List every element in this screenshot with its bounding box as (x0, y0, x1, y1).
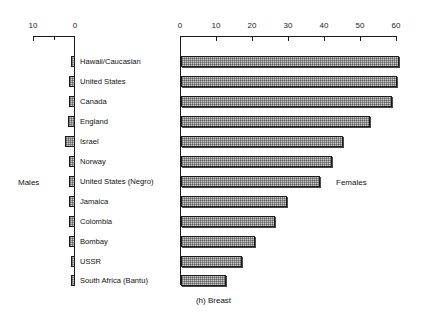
category-label-ussr: USSR (80, 258, 101, 266)
male-bar-israel (65, 136, 75, 147)
male-bar-norway (69, 156, 75, 167)
category-label-norway: Norway (80, 158, 106, 166)
female-bar-jamaica (181, 196, 287, 207)
female-bar-hawaii-caucasian (181, 56, 399, 67)
male-bar-canada (69, 96, 75, 107)
right-axis-ticklabel-20: 20 (244, 22, 260, 30)
female-bar-israel (181, 136, 343, 147)
right-axis-ticklabel-60: 60 (388, 22, 404, 30)
female-bar-united-states-negro (181, 176, 320, 187)
males-series-label: Males (18, 178, 39, 187)
category-label-united-states: United States (80, 78, 126, 86)
right-axis-tick-60 (396, 36, 397, 41)
right-axis-ticklabel-40: 40 (316, 22, 332, 30)
right-axis-ticklabel-0: 0 (172, 22, 188, 30)
male-bar-united-states (69, 76, 75, 87)
female-bar-colombia (181, 216, 275, 227)
male-bar-england (68, 116, 75, 127)
category-label-england: England (80, 118, 108, 126)
category-label-canada: Canada (80, 98, 107, 106)
right-axis-tick-40 (324, 36, 325, 41)
right-axis-ticklabel-10: 10 (208, 22, 224, 30)
female-bar-ussr (181, 256, 242, 267)
category-label-united-states-negro: United States (Negro) (80, 178, 153, 186)
bidirectional-bar-chart: 10 0 0 10 20 30 40 50 60 Hawaii/Caucasia… (0, 0, 427, 315)
right-axis-ticklabel-30: 30 (280, 22, 296, 30)
category-label-bombay: Bombay (80, 238, 108, 246)
right-axis-ticklabel-50: 50 (352, 22, 368, 30)
male-bar-hawaii-caucasian (71, 56, 75, 67)
male-bar-south-africa-bantu (71, 275, 75, 286)
left-axis-tick-10 (33, 36, 34, 41)
right-axis-tick-10 (216, 36, 217, 41)
male-bar-colombia (69, 216, 75, 227)
left-axis-ticklabel-0: 0 (67, 22, 83, 30)
figure-caption: (h) Breast (0, 296, 427, 305)
female-bar-south-africa-bantu (181, 275, 226, 286)
females-series-label: Females (336, 178, 367, 187)
female-bar-england (181, 116, 370, 127)
category-label-south-africa-bantu: South Africa (Bantu) (80, 277, 148, 285)
female-bar-norway (181, 156, 332, 167)
category-label-hawaii-caucasian: Hawaii/Caucasian (80, 58, 141, 66)
category-label-colombia: Colombia (80, 218, 112, 226)
male-bar-jamaica (69, 196, 75, 207)
male-bar-united-states-negro (69, 176, 75, 187)
female-bar-united-states (181, 76, 397, 87)
female-bar-canada (181, 96, 392, 107)
male-bar-bombay (69, 236, 75, 247)
right-axis-tick-20 (252, 36, 253, 41)
left-axis-ticklabel-10: 10 (25, 22, 41, 30)
category-label-jamaica: Jamaica (80, 198, 108, 206)
right-axis-tick-30 (288, 36, 289, 41)
right-axis-tick-50 (360, 36, 361, 41)
female-bar-bombay (181, 236, 255, 247)
category-label-israel: Israel (80, 138, 99, 146)
male-bar-ussr (71, 256, 75, 267)
left-axis-tick-5 (54, 36, 55, 40)
